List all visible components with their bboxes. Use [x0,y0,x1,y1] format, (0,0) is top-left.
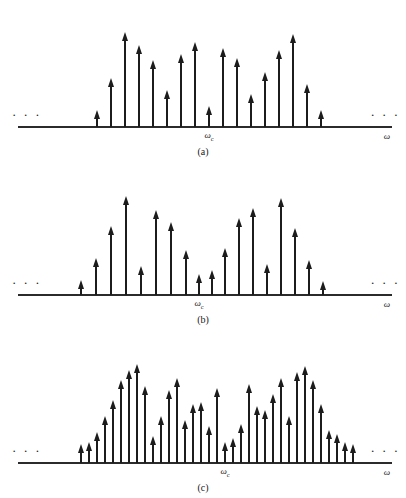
impulse-line [278,57,280,127]
arrow-head-icon [138,266,144,275]
arrow-head-icon [94,432,100,441]
impulse-line [248,391,250,463]
arrow-head-icon [236,218,242,227]
arrow-head-icon [78,444,84,453]
impulse-line [170,229,172,295]
impulse-line [208,113,210,127]
impulse-line [185,257,187,295]
panel-b-ellipsis-left: · · · [12,276,42,289]
arrow-head-icon [310,380,316,389]
impulse-line [124,39,126,127]
impulse-line [200,409,202,463]
arrow-head-icon [248,94,254,103]
impulse-line [238,225,240,295]
arrow-head-icon [222,248,228,257]
impulse-line [252,215,254,295]
arrow-head-icon [262,410,268,419]
arrow-head-icon [250,208,256,217]
arrow-head-icon [164,90,170,99]
impulse-line [352,451,354,463]
impulse-line [80,451,82,463]
impulse-line [232,445,234,463]
impulse-line [304,373,306,463]
impulse-line [280,385,282,463]
impulse-line [152,67,154,127]
panel-a-plot: · · · · · · ωc ω [0,10,406,128]
panel-b-axis [18,294,392,296]
impulse-line [266,271,268,295]
panel-b: · · · · · · ωc ω (b) [0,178,406,296]
impulse-line [344,449,346,463]
panel-a-omega-c-label: ωc [204,130,213,142]
impulse-line [110,233,112,295]
arrow-head-icon [278,198,284,207]
impulse-line [125,203,127,295]
impulse-line [95,265,97,295]
impulse-line [312,387,314,463]
impulse-line [250,101,252,127]
impulse-line [240,431,242,463]
panel-c: · · · · · · ωc ω (c) [0,346,406,464]
impulse-line [194,49,196,127]
panel-b-caption: (b) [0,314,406,325]
impulse-line [308,267,310,295]
arrow-head-icon [292,228,298,237]
arrow-head-icon [196,274,202,283]
impulse-line [294,235,296,295]
arrow-head-icon [230,438,236,447]
arrow-head-icon [110,400,116,409]
impulse-line [320,411,322,463]
panel-c-omega-label: ω [384,467,390,477]
impulse-line [120,387,122,463]
arrow-head-icon [220,48,226,57]
arrow-head-icon [94,110,100,119]
panel-a-omega-label: ω [384,131,390,141]
arrow-head-icon [222,442,228,451]
arrow-head-icon [350,444,356,453]
arrow-head-icon [238,424,244,433]
arrow-head-icon [178,54,184,63]
arrow-head-icon [214,388,220,397]
impulse-line [140,273,142,295]
impulse-line [110,85,112,127]
arrow-head-icon [294,372,300,381]
impulse-line [192,411,194,463]
impulse-line [160,423,162,463]
arrow-head-icon [246,384,252,393]
panel-c-omega-c-label: ωc [220,466,229,478]
impulse-line [112,407,114,463]
panel-c-caption: (c) [0,482,406,493]
arrow-head-icon [306,260,312,269]
arrow-head-icon [118,380,124,389]
impulse-line [224,449,226,463]
arrow-head-icon [168,222,174,231]
arrow-head-icon [198,402,204,411]
arrow-head-icon [290,34,296,43]
impulse-line [211,277,213,295]
arrow-head-icon [264,264,270,273]
arrow-head-icon [153,210,159,219]
impulse-line [336,441,338,463]
arrow-head-icon [190,404,196,413]
impulse-line [320,117,322,127]
arrow-head-icon [182,420,188,429]
panel-b-ellipsis-right: · · · [371,276,401,289]
arrow-head-icon [326,430,332,439]
impulse-line [288,423,290,463]
impulse-line [176,385,178,463]
arrow-head-icon [136,45,142,54]
impulse-line [168,397,170,463]
arrow-head-icon [134,364,140,373]
impulse-line [136,371,138,463]
panel-c-ellipsis-left: · · · [12,444,42,457]
arrow-head-icon [158,416,164,425]
impulse-line [222,55,224,127]
figure-container: · · · · · · ωc ω (a) · · · · · · ωc ω (b… [0,0,406,498]
arrow-head-icon [304,84,310,93]
arrow-head-icon [254,406,260,415]
arrow-head-icon [320,281,326,290]
impulse-line [166,97,168,127]
arrow-head-icon [206,426,212,435]
arrow-head-icon [142,386,148,395]
impulse-line [216,395,218,463]
